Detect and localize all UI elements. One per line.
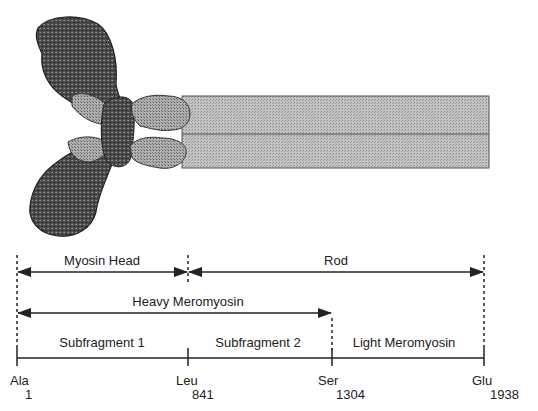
myosin-head-label: Myosin Head bbox=[64, 253, 140, 268]
residue-glu-number: 1938 bbox=[490, 387, 519, 402]
rod-span: Rod bbox=[189, 253, 483, 272]
residue-ser-number: 1304 bbox=[336, 387, 365, 402]
sequence-axis bbox=[17, 348, 484, 366]
segment-light-meromyosin: Light Meromyosin bbox=[353, 335, 456, 350]
segment-subfragment-2: Subfragment 2 bbox=[215, 335, 300, 350]
segment-subfragment-1: Subfragment 1 bbox=[59, 335, 144, 350]
rod-label: Rod bbox=[324, 253, 348, 268]
residue-leu: Leu bbox=[176, 373, 198, 388]
heavy-meromyosin-label: Heavy Meromyosin bbox=[132, 294, 243, 309]
residue-glu: Glu bbox=[472, 373, 492, 388]
myosin-head-span: Myosin Head bbox=[18, 253, 187, 272]
residue-ala-number: 1 bbox=[25, 387, 32, 402]
residue-leu-number: 841 bbox=[192, 387, 214, 402]
heavy-meromyosin-span: Heavy Meromyosin bbox=[18, 294, 331, 313]
neck-junction-illustration bbox=[101, 95, 190, 168]
myosin-diagram: Myosin Head Rod Heavy Meromyosin Subfrag… bbox=[0, 0, 538, 411]
residue-ser: Ser bbox=[318, 373, 339, 388]
rod-illustration bbox=[182, 96, 489, 168]
residue-ala: Ala bbox=[10, 373, 30, 388]
lower-head-illustration bbox=[30, 137, 114, 236]
